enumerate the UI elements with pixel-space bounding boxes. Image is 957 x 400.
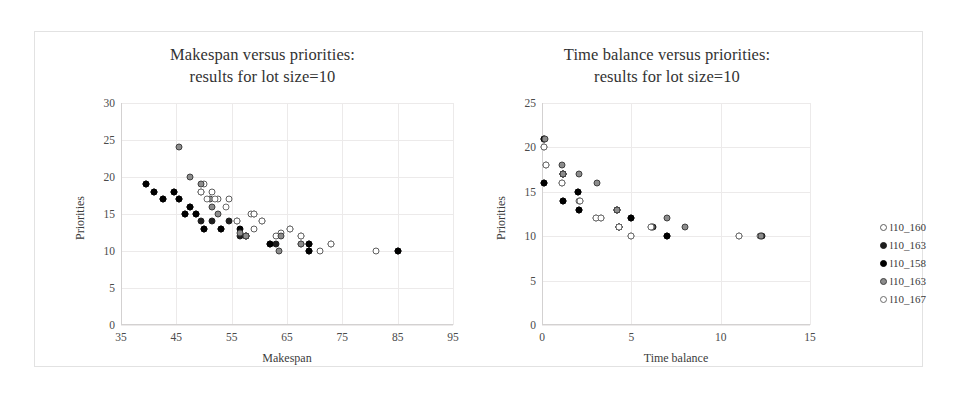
y-axis-title: Priorities	[73, 196, 88, 240]
x-tick-label: 5	[628, 331, 634, 343]
data-point	[198, 218, 205, 225]
data-point	[151, 188, 158, 195]
data-point	[176, 144, 183, 151]
data-point	[142, 181, 149, 188]
data-point	[170, 188, 177, 195]
legend-item[interactable]: l10_167	[880, 290, 957, 308]
legend-label: l10_160	[890, 221, 926, 233]
y-axis-title: Priorities	[494, 196, 509, 240]
x-axis-line	[121, 324, 453, 325]
data-point	[647, 224, 654, 231]
data-point	[559, 171, 566, 178]
gridline-horizontal	[542, 236, 810, 237]
plot-area-makespan	[121, 103, 453, 325]
chart-title-makespan: Makespan versus priorities: results for …	[35, 44, 490, 88]
chart-timebalance: Time balance versus priorities: results …	[467, 32, 867, 368]
data-point	[558, 162, 565, 169]
legend-label: l10_163	[890, 275, 926, 287]
gridline-vertical	[287, 103, 288, 325]
x-tick-label: 10	[715, 331, 727, 343]
y-tick-label: 20	[87, 171, 115, 183]
y-tick-label: 20	[508, 141, 536, 153]
x-axis-line	[542, 324, 810, 325]
gridline-vertical	[342, 103, 343, 325]
legend-marker-icon	[880, 278, 887, 285]
data-point	[225, 218, 232, 225]
gridline-vertical	[810, 103, 811, 325]
data-point	[187, 174, 194, 181]
data-point	[541, 135, 548, 142]
data-point	[628, 215, 635, 222]
plot-area-timebalance	[542, 103, 810, 325]
gridline-horizontal	[542, 325, 810, 326]
data-point	[223, 203, 230, 210]
gridline-vertical	[721, 103, 722, 325]
legend-label: l10_167	[890, 293, 926, 305]
x-tick-label: 95	[447, 331, 459, 343]
y-tick-label: 30	[87, 97, 115, 109]
data-point	[214, 211, 221, 218]
gridline-horizontal	[121, 325, 453, 326]
data-point	[560, 197, 567, 204]
data-point	[628, 233, 635, 240]
data-point	[575, 171, 582, 178]
data-point	[198, 188, 205, 195]
x-tick-label: 75	[337, 331, 349, 343]
data-point	[297, 240, 304, 247]
x-axis-title: Time balance	[542, 351, 810, 366]
gridline-horizontal	[542, 147, 810, 148]
legend-item[interactable]: l10_163	[880, 272, 957, 290]
data-point	[217, 225, 224, 232]
data-point	[594, 179, 601, 186]
data-point	[735, 233, 742, 240]
y-tick-label: 10	[87, 245, 115, 257]
data-point	[278, 233, 285, 240]
data-point	[681, 224, 688, 231]
data-point	[267, 240, 274, 247]
data-point	[212, 196, 219, 203]
y-tick-label: 0	[87, 319, 115, 331]
data-point	[540, 179, 547, 186]
gridline-vertical	[176, 103, 177, 325]
data-point	[597, 215, 604, 222]
data-point	[203, 196, 210, 203]
data-point	[615, 224, 622, 231]
data-point	[242, 233, 249, 240]
data-point	[372, 248, 379, 255]
data-point	[328, 240, 335, 247]
data-point	[225, 196, 232, 203]
x-tick-label: 55	[226, 331, 238, 343]
data-point	[159, 196, 166, 203]
data-point	[614, 206, 621, 213]
data-point	[558, 179, 565, 186]
data-point	[181, 211, 188, 218]
legend-item[interactable]: l10_158	[880, 254, 957, 272]
data-point	[306, 240, 313, 247]
legend-label: l10_163	[890, 239, 926, 251]
y-tick-label: 25	[87, 134, 115, 146]
y-tick-label: 5	[508, 275, 536, 287]
chart-title-timebalance: Time balance versus priorities: results …	[467, 44, 867, 88]
data-point	[286, 225, 293, 232]
data-point	[576, 197, 583, 204]
data-point	[250, 211, 257, 218]
data-point	[574, 188, 581, 195]
data-point	[187, 203, 194, 210]
legend-label: l10_158	[890, 257, 926, 269]
data-point	[297, 233, 304, 240]
data-point	[306, 248, 313, 255]
data-point	[275, 248, 282, 255]
gridline-horizontal	[542, 281, 810, 282]
legend-item[interactable]: l10_163	[880, 236, 957, 254]
chart-title-line1: Time balance versus priorities:	[467, 44, 867, 66]
data-point	[259, 218, 266, 225]
gridline-vertical	[398, 103, 399, 325]
y-axis-line	[121, 103, 122, 325]
data-point	[394, 248, 401, 255]
data-point	[664, 233, 671, 240]
data-point	[209, 203, 216, 210]
x-tick-label: 45	[171, 331, 183, 343]
legend-item[interactable]: l10_160	[880, 218, 957, 236]
x-axis-title: Makespan	[121, 351, 453, 366]
data-point	[540, 144, 547, 151]
